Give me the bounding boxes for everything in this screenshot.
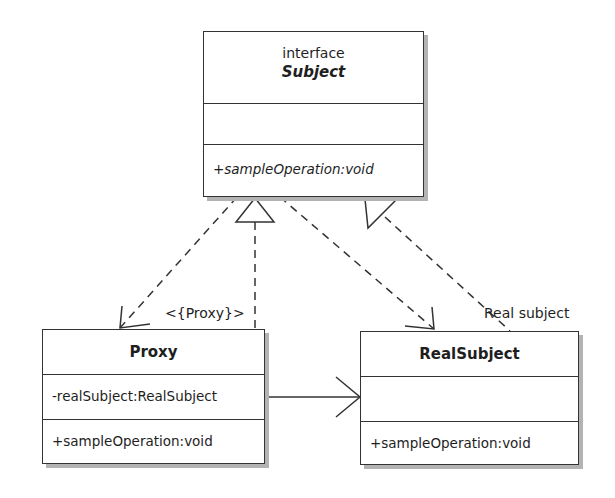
class-subject[interactable]: interface Subject +sampleOperation:void: [203, 31, 424, 197]
subject-operation: +sampleOperation:void: [204, 145, 423, 193]
realsubject-name: RealSubject: [419, 345, 520, 363]
proxy-operation: +sampleOperation:void: [43, 420, 264, 463]
dependency-subject-realsubject: [280, 197, 434, 329]
open-arrowhead-proxy: [120, 306, 150, 328]
proxy-title-section: Proxy: [43, 330, 264, 375]
hollow-triangle-realsubject: [365, 199, 397, 228]
realsubject-title-section: RealSubject: [361, 332, 578, 377]
proxy-name: Proxy: [129, 343, 177, 361]
subject-title-section: interface Subject: [204, 44, 423, 104]
class-realsubject[interactable]: RealSubject +sampleOperation:void: [360, 331, 579, 465]
real-subject-role-label: Real subject: [484, 305, 569, 321]
subject-stereotype: interface: [204, 44, 423, 62]
realsubject-operation: +sampleOperation:void: [361, 422, 578, 465]
proxy-operations-section: +sampleOperation:void: [43, 419, 264, 463]
realsubject-attributes-section: [361, 376, 578, 421]
subject-operations-section: +sampleOperation:void: [204, 144, 423, 196]
proxy-attributes-section: -realSubject:RealSubject: [43, 374, 264, 419]
class-proxy[interactable]: Proxy -realSubject:RealSubject +sampleOp…: [42, 329, 265, 464]
subject-name: Subject: [204, 62, 423, 82]
proxy-role-label: <{Proxy}>: [165, 305, 245, 321]
subject-attributes-section: [204, 103, 423, 144]
proxy-attribute: -realSubject:RealSubject: [43, 375, 264, 418]
realsubject-operations-section: +sampleOperation:void: [361, 421, 578, 464]
hollow-triangle-proxy: [236, 198, 274, 222]
